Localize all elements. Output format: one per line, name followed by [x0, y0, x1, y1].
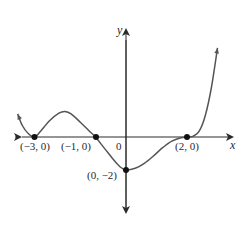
x-axis-label: x [229, 138, 236, 152]
data-point-1 [93, 134, 99, 140]
point-label-y-intercept: (0, −2) [87, 169, 117, 182]
axes [15, 30, 232, 212]
point-label-neg1: (−1, 0) [61, 140, 91, 153]
chart: x y 0 (−3, 0) (−1, 0) (0, −2) (2, 0) [0, 0, 243, 226]
origin-label: 0 [116, 140, 122, 152]
points-layer [32, 134, 191, 173]
labels-layer: x y 0 (−3, 0) (−1, 0) (0, −2) (2, 0) [20, 23, 236, 182]
curve-left-arrow [18, 114, 22, 120]
point-label-2: (2, 0) [175, 140, 199, 153]
point-label-neg3: (−3, 0) [20, 140, 50, 153]
y-axis-label: y [116, 23, 123, 37]
data-point-2 [123, 167, 129, 173]
